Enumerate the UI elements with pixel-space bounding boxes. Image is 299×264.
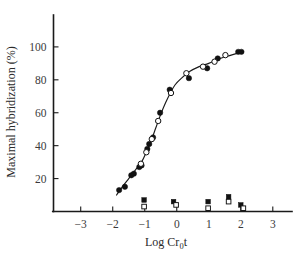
y-axis-group: 20406080100 bbox=[29, 15, 58, 212]
data-point-filled-circle bbox=[131, 171, 136, 176]
x-tick-label: 3 bbox=[270, 218, 276, 230]
data-point-open-square bbox=[206, 206, 211, 211]
y-tick-label: 40 bbox=[35, 140, 47, 152]
x-tick-label: −3 bbox=[75, 218, 87, 230]
data-point-open-circle bbox=[200, 64, 205, 69]
data-point-open-circle bbox=[168, 90, 173, 95]
series-control-open-squares bbox=[142, 199, 246, 210]
x-tick-label: −1 bbox=[139, 218, 151, 230]
data-point-open-square bbox=[226, 199, 231, 204]
data-point-open-square bbox=[142, 204, 147, 209]
y-tick-labels: 20406080100 bbox=[29, 41, 47, 185]
x-axis-group: −3−2−10123 bbox=[53, 207, 292, 230]
plot-canvas: 20406080100 −3−2−10123 Maximal hybridiza… bbox=[0, 0, 299, 264]
x-tick-label: 0 bbox=[174, 218, 180, 230]
data-point-open-circle bbox=[184, 71, 189, 76]
y-tick-label: 100 bbox=[29, 41, 47, 53]
data-point-open-square bbox=[174, 203, 179, 208]
data-point-open-circle bbox=[144, 150, 149, 155]
data-point-filled-circle bbox=[122, 184, 127, 189]
data-point-filled-square bbox=[142, 198, 147, 203]
y-tick-label: 80 bbox=[35, 74, 47, 86]
data-point-filled-circle bbox=[157, 110, 162, 115]
data-point-open-circle bbox=[155, 118, 160, 123]
x-axis-title-group: Log Cr0t bbox=[145, 235, 188, 251]
hybridization-cot-curve-figure: 20406080100 −3−2−10123 Maximal hybridiza… bbox=[0, 0, 299, 264]
x-tick-label: −2 bbox=[107, 218, 119, 230]
data-point-open-circle bbox=[212, 59, 217, 64]
y-axis-title-group: Maximal hybridization (%) bbox=[4, 46, 18, 177]
data-point-open-circle bbox=[149, 136, 154, 141]
data-point-open-square bbox=[241, 206, 246, 211]
x-axis-title: Log Cr0t bbox=[145, 235, 188, 251]
data-point-layer bbox=[116, 49, 245, 210]
y-tick-label: 60 bbox=[35, 107, 47, 119]
data-point-filled-square bbox=[206, 199, 211, 204]
data-point-filled-square bbox=[226, 194, 231, 199]
series-hybridization-open-circles bbox=[138, 52, 228, 166]
data-point-open-circle bbox=[138, 161, 143, 166]
data-point-filled-circle bbox=[116, 187, 121, 192]
x-tick-label: 1 bbox=[206, 218, 212, 230]
y-tick-label: 20 bbox=[35, 173, 47, 185]
x-tick-label: 2 bbox=[238, 218, 244, 230]
data-point-open-circle bbox=[223, 52, 228, 57]
series-hybridization-filled-circles bbox=[116, 49, 244, 193]
x-tick-labels: −3−2−10123 bbox=[75, 218, 276, 230]
y-axis-title: Maximal hybridization (%) bbox=[4, 46, 18, 177]
data-point-filled-circle bbox=[239, 49, 244, 54]
